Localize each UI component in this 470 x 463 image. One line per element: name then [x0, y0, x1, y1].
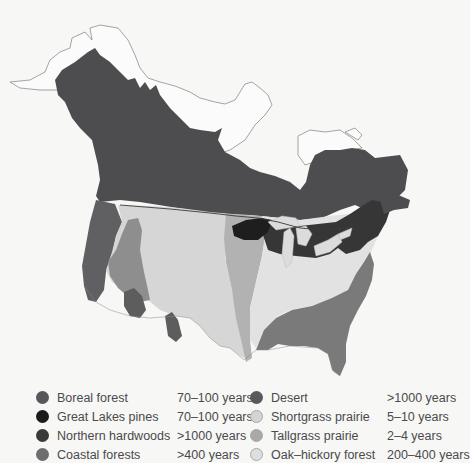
legend-label: Shortgrass prairie	[271, 410, 387, 424]
legend-years: 70–100 years	[177, 391, 253, 405]
legend-item-tallgrass-prairie: Tallgrass prairie 2–4 years	[250, 426, 470, 445]
legend-item-desert: Desert >1000 years	[250, 388, 470, 407]
legend-years: 5–10 years	[387, 410, 449, 424]
boreal-forest-swatch-icon	[36, 391, 49, 404]
northern-hardwoods-swatch-icon	[36, 429, 49, 442]
legend-item-great-lakes-pines: Great Lakes pines 70–100 years	[36, 407, 253, 426]
legend-years: 70–100 years	[177, 410, 253, 424]
legend-label: Boreal forest	[57, 391, 177, 405]
map-legend: Boreal forest 70–100 years Great Lakes p…	[0, 388, 447, 463]
legend-item-oak-hickory-forest: Oak–hickory forest 200–400 years	[250, 445, 470, 463]
legend-years: >400 years	[177, 448, 239, 462]
great-lakes-pines-swatch-icon	[36, 410, 49, 423]
legend-years: >1000 years	[177, 429, 246, 443]
legend-item-boreal-forest: Boreal forest 70–100 years	[36, 388, 253, 407]
coastal-forests-swatch-icon	[36, 448, 49, 461]
legend-item-shortgrass-prairie: Shortgrass prairie 5–10 years	[250, 407, 470, 426]
legend-years: >1000 years	[387, 391, 456, 405]
legend-label: Great Lakes pines	[57, 410, 177, 424]
oak-hickory-forest-swatch-icon	[250, 448, 263, 461]
legend-label: Coastal forests	[57, 448, 177, 462]
legend-label: Desert	[271, 391, 387, 405]
legend-label: Northern hardwoods	[57, 429, 177, 443]
legend-years: 200–400 years	[387, 448, 470, 462]
legend-item-northern-hardwoods: Northern hardwoods >1000 years	[36, 426, 253, 445]
vegetation-map	[0, 0, 447, 385]
legend-item-coastal-forests: Coastal forests >400 years	[36, 445, 253, 463]
legend-label: Tallgrass prairie	[271, 429, 387, 443]
legend-column-right: Desert >1000 years Shortgrass prairie 5–…	[250, 388, 470, 463]
legend-years: 2–4 years	[387, 429, 442, 443]
desert-swatch-icon	[250, 391, 263, 404]
tallgrass-prairie-swatch-icon	[250, 429, 263, 442]
legend-label: Oak–hickory forest	[271, 448, 387, 462]
legend-column-left: Boreal forest 70–100 years Great Lakes p…	[36, 388, 253, 463]
shortgrass-prairie-swatch-icon	[250, 410, 263, 423]
